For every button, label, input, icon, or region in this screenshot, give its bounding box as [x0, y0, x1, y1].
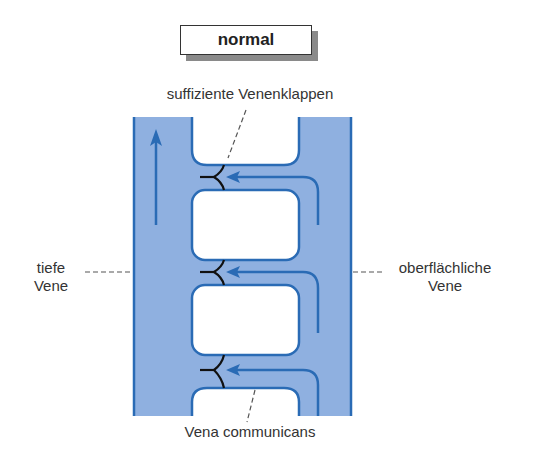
tissue-gap-2 — [192, 285, 299, 355]
tissue-gap-1 — [192, 190, 299, 260]
vein-diagram — [0, 0, 537, 473]
bottom-notch — [192, 388, 299, 418]
top-notch — [192, 115, 299, 165]
